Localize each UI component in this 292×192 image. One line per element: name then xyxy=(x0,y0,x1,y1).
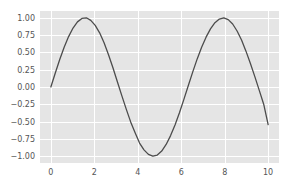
y-tick-label: 0.00 xyxy=(17,83,35,92)
x-axis-tick-labels: 0246810 xyxy=(40,168,279,182)
x-tick-label: 0 xyxy=(48,168,53,177)
x-tick-label: 10 xyxy=(263,168,273,177)
figure-canvas: −1.00−0.75−0.50−0.250.000.250.500.751.00… xyxy=(0,0,292,192)
x-tick-label: 4 xyxy=(135,168,140,177)
y-tick-label: −0.50 xyxy=(10,117,35,126)
y-tick-label: 1.00 xyxy=(17,13,35,22)
y-tick-label: 0.50 xyxy=(17,48,35,57)
plot-axes-area xyxy=(40,11,279,163)
y-tick-label: 0.75 xyxy=(17,31,35,40)
x-tick-label: 6 xyxy=(179,168,184,177)
y-tick-label: −0.75 xyxy=(10,134,35,143)
y-tick-label: −0.25 xyxy=(10,100,35,109)
data-line-plot xyxy=(40,11,279,163)
y-axis-tick-labels: −1.00−0.75−0.50−0.250.000.250.500.751.00 xyxy=(0,11,35,163)
y-tick-label: 0.25 xyxy=(17,65,35,74)
y-tick-label: −1.00 xyxy=(10,152,35,161)
series-sin-x-line xyxy=(51,18,268,156)
x-tick-label: 2 xyxy=(92,168,97,177)
x-tick-label: 8 xyxy=(222,168,227,177)
